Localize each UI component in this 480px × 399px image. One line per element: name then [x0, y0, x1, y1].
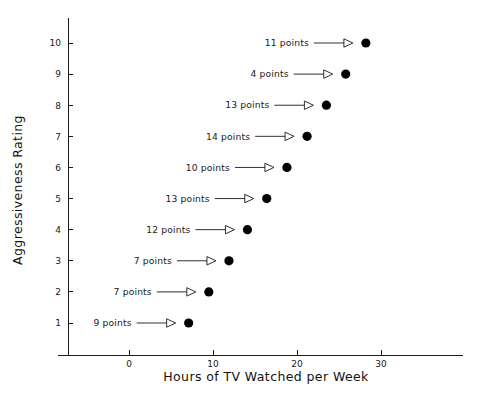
y-tick-label: 9 — [55, 69, 61, 79]
y-tick-label: 4 — [55, 225, 61, 235]
x-tick-label: 20 — [291, 359, 303, 369]
y-axis-ticks: 12345678910 — [50, 38, 73, 328]
y-tick-label: 1 — [55, 318, 61, 328]
x-tick-label: 30 — [375, 359, 387, 369]
annotation-arrowhead-icon — [207, 257, 216, 265]
data-point-marker — [204, 287, 213, 296]
scatter-plot: 0102030 12345678910 11 points4 points13 … — [0, 0, 480, 399]
x-tick-label: 10 — [207, 359, 219, 369]
annotation-label: 7 points — [134, 255, 172, 266]
data-point-marker — [243, 225, 252, 234]
point-annotations: 11 points4 points13 points14 points10 po… — [93, 37, 352, 328]
x-axis-title: Hours of TV Watched per Week — [163, 369, 369, 384]
data-point-marker — [302, 132, 311, 141]
y-tick-label: 2 — [55, 287, 61, 297]
chart-page: 0102030 12345678910 11 points4 points13 … — [0, 0, 480, 399]
y-tick-label: 6 — [55, 163, 61, 173]
x-tick-label: 0 — [126, 359, 132, 369]
annotation-arrowhead-icon — [285, 132, 294, 140]
annotation-label: 7 points — [114, 286, 152, 297]
annotation-label: 9 points — [93, 317, 131, 328]
annotation-arrowhead-icon — [324, 70, 333, 78]
annotation-label: 13 points — [166, 193, 210, 204]
data-point-marker — [322, 101, 331, 110]
annotation-label: 14 points — [206, 131, 250, 142]
annotation-label: 4 points — [251, 68, 289, 79]
annotation-arrowhead-icon — [187, 288, 196, 296]
annotation-label: 13 points — [225, 99, 269, 110]
annotation-arrowhead-icon — [265, 163, 274, 171]
data-point-marker — [341, 70, 350, 79]
y-tick-label: 3 — [55, 256, 61, 266]
annotation-arrowhead-icon — [225, 225, 234, 233]
annotation-arrowhead-icon — [245, 194, 254, 202]
annotation-arrowhead-icon — [167, 319, 176, 327]
x-axis-ticks: 0102030 — [126, 350, 387, 369]
y-tick-label: 5 — [55, 194, 61, 204]
y-axis-title: Aggressiveness Rating — [10, 115, 25, 265]
annotation-label: 10 points — [186, 162, 230, 173]
data-point-marker — [224, 256, 233, 265]
y-tick-label: 10 — [50, 38, 62, 48]
data-point-marker — [262, 194, 271, 203]
data-point-marker — [184, 318, 193, 327]
annotation-label: 11 points — [265, 37, 309, 48]
annotation-label: 12 points — [146, 224, 190, 235]
y-tick-label: 7 — [55, 132, 61, 142]
annotation-arrowhead-icon — [344, 39, 353, 47]
data-points — [184, 38, 370, 327]
y-tick-label: 8 — [55, 101, 61, 111]
data-point-marker — [282, 163, 291, 172]
annotation-arrowhead-icon — [304, 101, 313, 109]
data-point-marker — [361, 38, 370, 47]
